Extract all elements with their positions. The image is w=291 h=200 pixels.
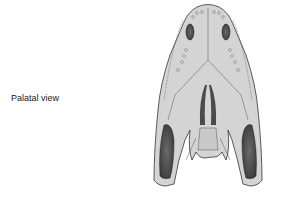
view-label: Palatal view xyxy=(11,93,59,103)
right-choana xyxy=(222,24,230,40)
left-choana xyxy=(186,24,194,40)
skull-illustration xyxy=(130,0,290,200)
